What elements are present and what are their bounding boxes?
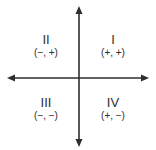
quadrant-2-signs: (−, +) <box>26 47 66 58</box>
quadrant-1-label: I (+, +) <box>93 33 133 58</box>
arrow-left-icon <box>7 75 15 82</box>
axes-graphic <box>0 0 156 150</box>
quadrant-3-numeral: III <box>26 96 66 109</box>
quadrant-2-label: II (−, +) <box>26 33 66 58</box>
quadrant-2-numeral: II <box>26 33 66 46</box>
quadrant-4-numeral: IV <box>93 96 133 109</box>
quadrant-1-signs: (+, +) <box>93 47 133 58</box>
quadrant-3-label: III (−, −) <box>26 96 66 121</box>
arrow-up-icon <box>76 6 83 14</box>
arrow-down-icon <box>76 139 83 147</box>
arrow-right-icon <box>141 75 149 82</box>
quadrant-1-numeral: I <box>93 33 133 46</box>
quadrant-4-label: IV (+, −) <box>93 96 133 121</box>
coordinate-plane-diagram: II (−, +) I (+, +) III (−, −) IV (+, −) <box>0 0 156 150</box>
quadrant-3-signs: (−, −) <box>26 110 66 121</box>
quadrant-4-signs: (+, −) <box>93 110 133 121</box>
